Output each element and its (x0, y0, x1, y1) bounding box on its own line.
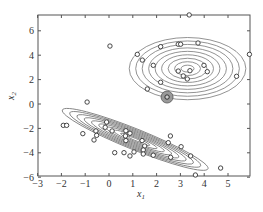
data-point (140, 138, 144, 142)
y-tick-label: −6 (23, 172, 34, 183)
x-tick-label: 2 (154, 178, 159, 189)
data-point (128, 154, 132, 158)
y-tick-label: 6 (29, 25, 34, 36)
data-point (122, 150, 126, 154)
data-point (176, 69, 180, 73)
data-point (185, 77, 189, 81)
data-point (124, 129, 128, 133)
data-point (193, 173, 197, 177)
data-point (205, 69, 209, 73)
data-point (128, 131, 132, 135)
data-point (202, 63, 206, 67)
data-point (187, 13, 191, 17)
data-point (94, 133, 98, 137)
x-tick-label: −2 (56, 178, 67, 189)
data-point (218, 166, 222, 170)
data-point (64, 123, 68, 127)
y-tick-label: −2 (23, 123, 34, 134)
data-point (141, 152, 145, 156)
data-point (104, 120, 108, 124)
data-point (108, 44, 112, 48)
data-point (85, 100, 89, 104)
data-point (196, 41, 200, 45)
data-point (168, 134, 172, 138)
data-point (151, 63, 155, 67)
data-point (247, 52, 251, 56)
data-point (81, 131, 85, 135)
data-point (113, 150, 117, 154)
y-tick-label: 0 (29, 99, 34, 110)
data-point (166, 140, 170, 144)
data-point (123, 134, 127, 138)
data-point (151, 153, 155, 157)
x-axis-ticks: −3−2−1012345 (32, 15, 230, 189)
data-point (92, 138, 96, 142)
data-point (158, 80, 162, 84)
x-tick-label: 5 (226, 178, 231, 189)
x-tick-label: 4 (202, 178, 207, 189)
x-axis-label: x1 (136, 188, 145, 201)
data-point (103, 125, 107, 129)
scatter-contour-chart: −3−2−1012345 −6−4−20246 x1 x2 (0, 0, 263, 212)
data-point (94, 129, 98, 133)
x-tick-label: −1 (80, 178, 91, 189)
data-point (124, 138, 128, 142)
data-point (132, 150, 136, 154)
data-point (145, 87, 149, 91)
data-point (179, 145, 183, 149)
data-point (135, 52, 139, 56)
data-point (140, 58, 144, 62)
data-point (181, 74, 185, 78)
y-tick-label: 2 (29, 74, 34, 85)
data-point (188, 154, 192, 158)
y-tick-label: −4 (23, 147, 34, 158)
data-point (110, 129, 114, 133)
y-axis-ticks: −6−4−20246 (23, 25, 250, 182)
y-tick-label: 4 (29, 50, 34, 61)
lower-gaussian-contour (58, 100, 211, 178)
x-tick-label: 1 (130, 178, 135, 189)
x-tick-label: 0 (107, 178, 112, 189)
data-point (234, 74, 238, 78)
data-point (188, 68, 192, 72)
data-point (168, 155, 172, 159)
data-point (158, 44, 162, 48)
y-axis-label: x2 (5, 92, 18, 101)
x-tick-label: 3 (178, 178, 183, 189)
data-point (178, 42, 182, 46)
highlighted-point (165, 95, 169, 99)
